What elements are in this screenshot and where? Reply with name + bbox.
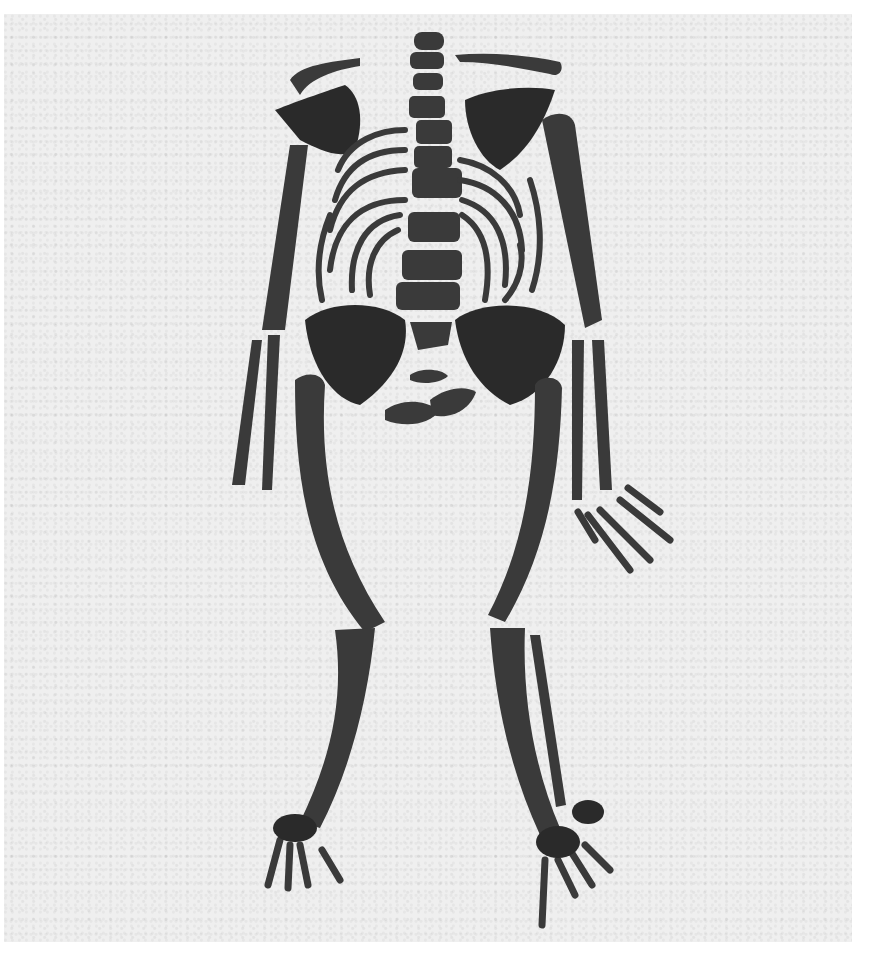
coccyx	[410, 370, 448, 383]
left-foot	[268, 840, 340, 888]
right-hand	[578, 488, 670, 570]
left-tarsals	[273, 814, 317, 842]
left-humerus	[262, 145, 308, 330]
skeleton-illustration	[0, 0, 869, 957]
pubis-right	[430, 388, 476, 416]
left-femur	[295, 375, 385, 632]
left-scapula	[275, 85, 360, 154]
left-tibia	[300, 628, 375, 828]
right-radius	[572, 340, 584, 500]
right-ulna	[592, 340, 612, 490]
right-ribs	[460, 160, 540, 300]
left-ulna	[262, 335, 280, 490]
sacrum	[410, 322, 452, 350]
right-calcaneus	[572, 800, 604, 824]
right-tarsals	[536, 826, 580, 858]
left-ribs	[319, 130, 405, 300]
right-femur	[488, 378, 562, 622]
right-scapula	[465, 88, 555, 170]
right-clavicle	[455, 54, 562, 75]
left-radius	[232, 340, 262, 485]
right-humerus	[542, 114, 602, 328]
